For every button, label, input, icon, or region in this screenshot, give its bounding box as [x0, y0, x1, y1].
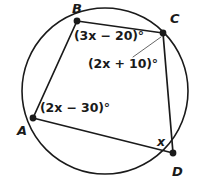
angle-label-a: (2x − 30)° — [40, 102, 110, 115]
vertex-point-b — [74, 18, 81, 25]
vertex-point-d — [170, 150, 177, 157]
geometry-diagram: B C A D (3x − 20)° (2x + 10)° (2x − 30)°… — [0, 0, 197, 187]
vertex-point-a — [30, 115, 37, 122]
vertex-label-d: D — [172, 165, 183, 178]
vertex-label-a: A — [17, 124, 27, 137]
angle-label-c: (2x + 10)° — [88, 58, 158, 71]
vertex-point-c — [160, 30, 167, 37]
vertex-label-c: C — [170, 12, 180, 25]
angle-label-d: x — [157, 136, 165, 149]
vertex-label-b: B — [72, 2, 82, 15]
angle-label-b: (3x − 20)° — [74, 30, 144, 43]
